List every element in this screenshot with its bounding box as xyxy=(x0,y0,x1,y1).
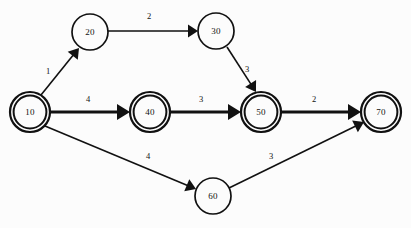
node-40-label: 40 xyxy=(145,107,155,117)
edge-40-50-arrowhead-icon xyxy=(228,104,241,120)
edge-30-50 xyxy=(227,47,256,92)
edge-10-20-weight-label: 1 xyxy=(46,66,50,76)
node-30[interactable]: 30 xyxy=(198,13,234,49)
node-40[interactable]: 40 xyxy=(130,92,170,132)
edge-10-40-arrowhead-icon xyxy=(117,104,130,120)
node-10-label: 10 xyxy=(25,107,35,117)
edge-60-70-line xyxy=(229,126,356,188)
edge-40-50-weight-label: 3 xyxy=(199,94,203,104)
node-70-label: 70 xyxy=(376,107,386,117)
edge-50-70-arrowhead-icon xyxy=(348,104,361,120)
node-30-label: 30 xyxy=(211,26,221,36)
edge-20-30-arrowhead-icon xyxy=(188,25,198,38)
node-20-label: 20 xyxy=(85,27,95,37)
edge-50-70-weight-label: 2 xyxy=(312,94,316,104)
node-10[interactable]: 10 xyxy=(10,92,50,132)
node-60[interactable]: 60 xyxy=(195,178,231,214)
edge-20-30 xyxy=(108,25,198,38)
node-50-label: 50 xyxy=(256,107,266,117)
graph-svg-surface: 10203040506070 12343243 xyxy=(0,0,411,228)
node-50[interactable]: 50 xyxy=(241,92,281,132)
edge-10-60-line xyxy=(45,126,188,186)
edge-10-40 xyxy=(50,104,130,120)
graph-diagram: 10203040506070 12343243 xyxy=(0,0,411,228)
edge-10-60 xyxy=(45,126,196,191)
edge-60-70-weight-label: 3 xyxy=(269,151,273,161)
edge-10-40-weight-label: 4 xyxy=(86,94,91,104)
edge-30-50-arrowhead-icon xyxy=(245,80,256,92)
edge-40-50 xyxy=(170,104,241,120)
edge-50-70 xyxy=(281,104,361,120)
edge-10-20-arrowhead-icon xyxy=(68,48,79,60)
node-20[interactable]: 20 xyxy=(72,14,108,50)
edge-10-60-weight-label: 4 xyxy=(146,151,151,161)
edge-30-50-weight-label: 3 xyxy=(245,64,249,74)
node-70[interactable]: 70 xyxy=(361,92,401,132)
edge-60-70 xyxy=(229,121,364,188)
node-60-label: 60 xyxy=(208,191,218,201)
edge-20-30-weight-label: 2 xyxy=(147,11,151,21)
